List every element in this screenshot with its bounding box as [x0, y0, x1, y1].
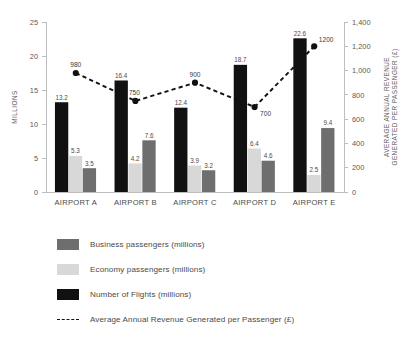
legend-label: Business passengers (millions) [90, 240, 205, 249]
legend-item: Average Annual Revenue Generated per Pas… [57, 307, 387, 332]
category-label: AIRPORT B [114, 198, 157, 207]
right-axis-title: GENERATED PER PASSENGER (£) [391, 48, 399, 165]
right-tick-label: 0 [352, 188, 356, 197]
left-tick-label: 0 [34, 188, 38, 197]
bar [55, 102, 68, 192]
bar-value-label: 7.6 [145, 132, 154, 139]
bar-value-label: 3.5 [85, 160, 94, 167]
bar-value-label: 3.2 [204, 162, 213, 169]
bar [142, 140, 155, 192]
left-tick-label: 15 [30, 86, 38, 95]
revenue-value-label: 1200 [319, 36, 334, 43]
bar-value-label: 5.3 [71, 147, 80, 154]
left-axis-title: MILLIONS [11, 90, 18, 123]
revenue-value-label: 750 [129, 89, 140, 96]
bar-value-label: 22.6 [294, 30, 307, 37]
revenue-value-label: 700 [260, 110, 271, 117]
legend-swatch-icon [57, 289, 79, 300]
category-label: AIRPORT D [233, 198, 277, 207]
chart-plot-area: 051015202502004006008001,0001,2001,400MI… [0, 0, 419, 232]
right-tick-label: 1,200 [352, 42, 371, 51]
right-tick-label: 400 [352, 139, 364, 148]
right-tick-label: 200 [352, 163, 364, 172]
legend-label: Number of Flights (millions) [90, 290, 191, 299]
bar [188, 165, 201, 192]
legend-label: Economy passengers (millions) [90, 265, 205, 274]
bar-value-label: 4.6 [264, 152, 273, 159]
legend-label: Average Annual Revenue Generated per Pas… [90, 315, 294, 324]
bar [128, 163, 141, 192]
right-tick-label: 1,400 [352, 18, 371, 27]
left-tick-label: 25 [30, 18, 38, 27]
bar [69, 156, 82, 192]
legend-dashed-line-icon [57, 314, 79, 325]
revenue-data-point [73, 70, 79, 76]
bar [248, 148, 261, 192]
revenue-data-point [311, 43, 317, 49]
bar-value-label: 13.2 [55, 94, 68, 101]
legend-item: Business passengers (millions) [57, 232, 387, 257]
bar [262, 161, 275, 192]
bar-value-label: 12.4 [175, 99, 188, 106]
right-tick-label: 1,000 [352, 66, 371, 75]
bar-value-label: 4.2 [131, 155, 140, 162]
left-tick-label: 20 [30, 52, 38, 61]
category-label: AIRPORT C [173, 198, 217, 207]
bar-value-label: 3.9 [190, 157, 199, 164]
revenue-data-point [192, 80, 198, 86]
category-label: AIRPORT E [293, 198, 336, 207]
chart-legend: Business passengers (millions)Economy pa… [57, 232, 387, 332]
bar [83, 168, 96, 192]
combo-chart: 051015202502004006008001,0001,2001,400MI… [0, 0, 419, 342]
bar-value-label: 9.4 [323, 119, 332, 126]
bar [321, 128, 334, 192]
category-label: AIRPORT A [55, 198, 98, 207]
bar-value-label: 16.4 [115, 72, 128, 79]
revenue-value-label: 900 [189, 71, 200, 78]
right-tick-label: 800 [352, 91, 364, 100]
bar [293, 38, 306, 192]
bar-value-label: 2.5 [310, 166, 319, 173]
bar-value-label: 6.4 [250, 140, 259, 147]
left-tick-label: 10 [30, 120, 38, 129]
bar [307, 175, 320, 192]
revenue-value-label: 980 [70, 61, 81, 68]
right-axis-title: AVERAGE ANNUAL REVENUE [383, 57, 390, 157]
bar [202, 170, 215, 192]
legend-swatch-icon [57, 239, 79, 250]
right-tick-label: 600 [352, 115, 364, 124]
legend-swatch-icon [57, 264, 79, 275]
bar [234, 65, 247, 192]
legend-item: Economy passengers (millions) [57, 257, 387, 282]
bar [174, 108, 187, 192]
revenue-data-point [132, 98, 138, 104]
revenue-data-point [252, 104, 258, 110]
legend-item: Number of Flights (millions) [57, 282, 387, 307]
left-tick-label: 5 [34, 154, 38, 163]
bar-value-label: 18.7 [234, 56, 247, 63]
